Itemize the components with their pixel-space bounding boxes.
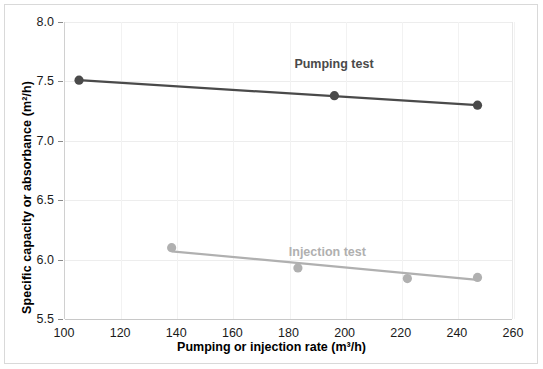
x-tick-label-140: 140 [154, 327, 198, 340]
x-tick-label-160: 160 [210, 327, 254, 340]
x-tick-label-120: 120 [98, 327, 142, 340]
x-tick-label-100: 100 [42, 327, 86, 340]
data-point [293, 263, 302, 272]
data-point [473, 101, 482, 110]
trendline-pumping-test [79, 80, 477, 105]
y-tick-mark-7.0 [58, 141, 63, 142]
y-tick-mark-6.0 [58, 260, 63, 261]
plot-area: Pumping test Injection test [64, 22, 513, 319]
data-point [74, 76, 83, 85]
data-point [473, 273, 482, 282]
data-point [167, 243, 176, 252]
gridline-x-260 [514, 22, 515, 319]
y-tick-label-7.5: 7.5 [14, 75, 54, 88]
y-tick-mark-5.5 [58, 319, 63, 320]
gridline-y-5.5 [65, 319, 512, 320]
series-pumping-test [74, 76, 482, 110]
series-label-injection-test: Injection test [289, 245, 366, 259]
x-tick-label-200: 200 [323, 327, 367, 340]
data-layer [65, 22, 514, 319]
x-tick-label-240: 240 [435, 327, 479, 340]
y-tick-label-7.0: 7.0 [14, 135, 54, 148]
series-label-pumping-test: Pumping test [294, 57, 373, 71]
x-tick-label-260: 260 [491, 327, 535, 340]
y-tick-mark-7.5 [58, 81, 63, 82]
y-tick-mark-8.0 [58, 22, 63, 23]
x-tick-label-180: 180 [267, 327, 311, 340]
y-tick-label-8.0: 8.0 [14, 16, 54, 29]
y-tick-label-6.5: 6.5 [14, 194, 54, 207]
x-axis-title: Pumping or injection rate (m³/h) [0, 340, 543, 354]
y-tick-mark-6.5 [58, 200, 63, 201]
data-point [403, 274, 412, 283]
x-tick-label-220: 220 [379, 327, 423, 340]
data-point [330, 91, 339, 100]
y-tick-label-6.0: 6.0 [14, 254, 54, 267]
y-tick-label-5.5: 5.5 [14, 313, 54, 326]
chart-figure: Specific capacity or absorbance (m²/h) P… [0, 0, 543, 369]
